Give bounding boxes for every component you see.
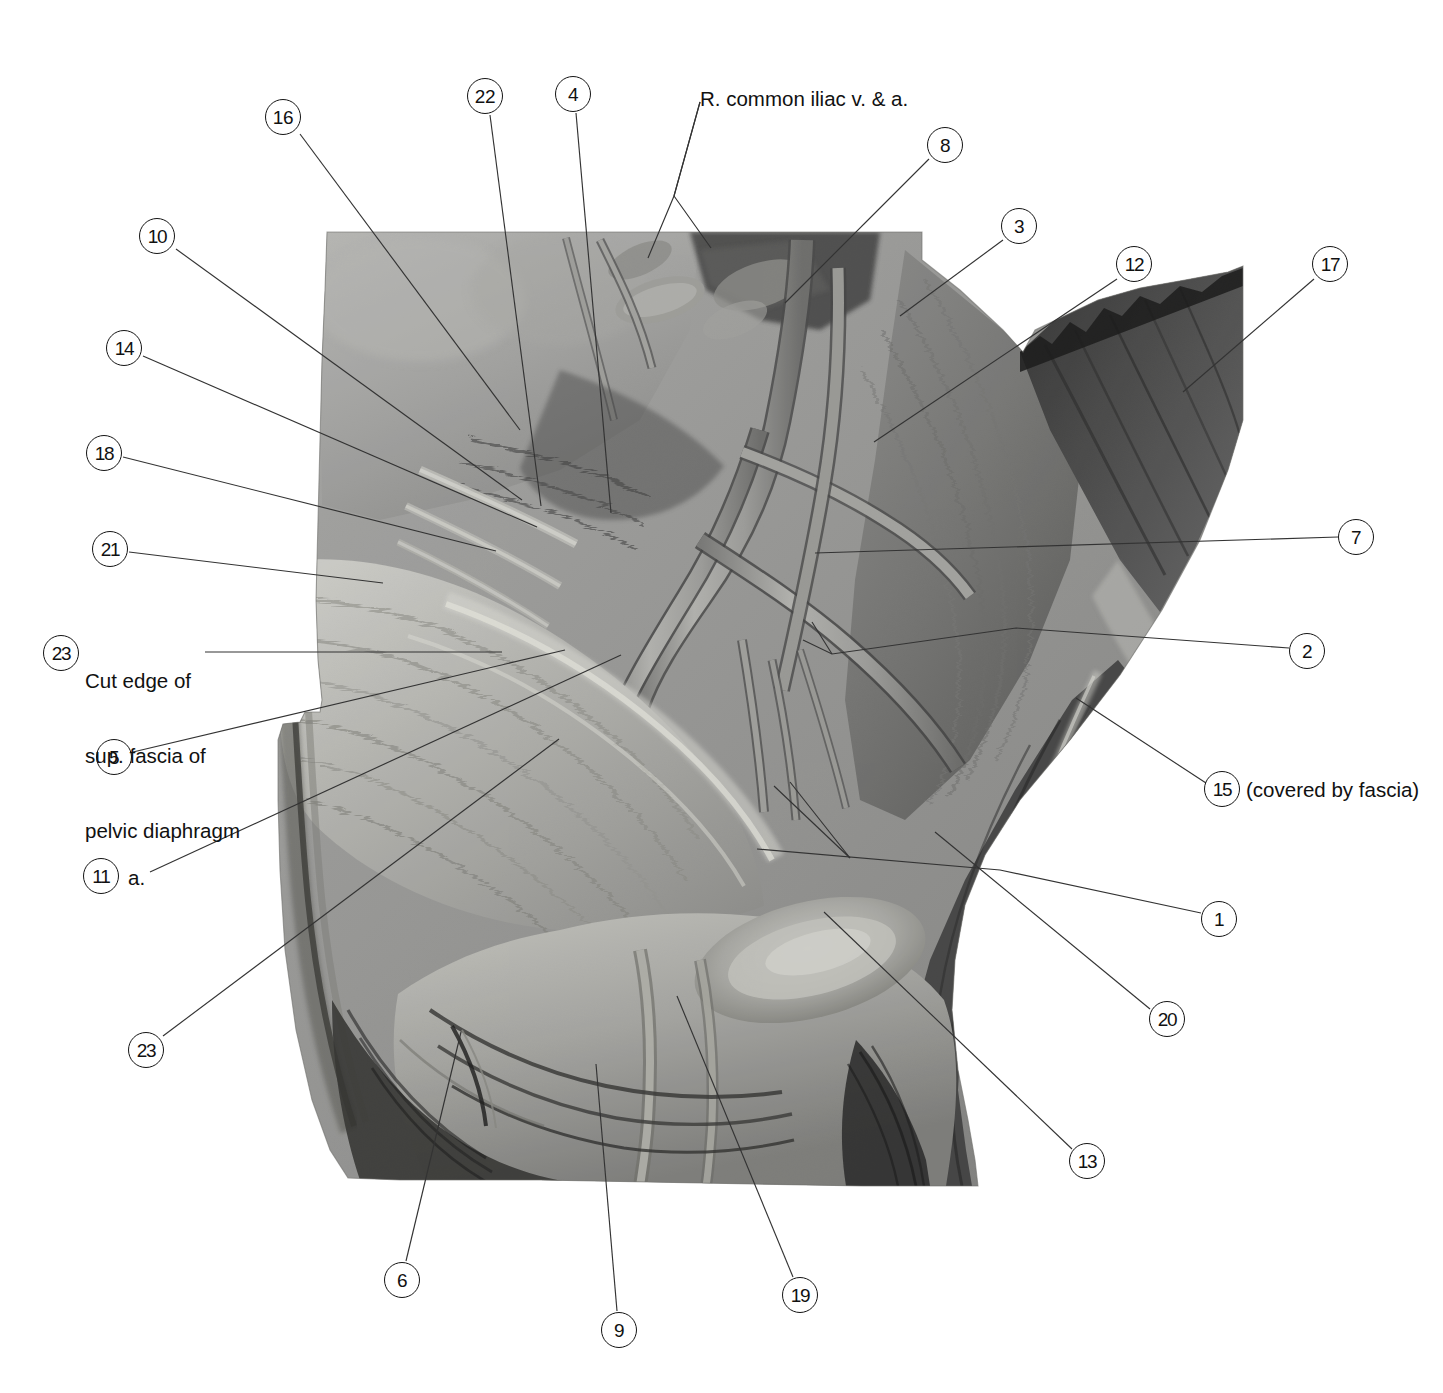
- leader-4: [576, 113, 611, 513]
- callout-3-label: 3: [1014, 217, 1024, 236]
- callout-21-label: 21: [101, 540, 120, 559]
- callout-9-label: 9: [614, 1321, 624, 1340]
- callout-6[interactable]: 6: [384, 1262, 420, 1298]
- callout-6-label: 6: [397, 1271, 407, 1290]
- callout-10[interactable]: 10: [139, 218, 175, 254]
- leader-18: [123, 457, 496, 551]
- callout-23-cut-edge-label: 23: [52, 644, 71, 663]
- leader-common-iliac-a: [648, 102, 700, 258]
- callout-19[interactable]: 19: [782, 1277, 818, 1313]
- leader-16: [300, 134, 520, 430]
- label-11-suffix: a.: [128, 866, 145, 890]
- callout-21[interactable]: 21: [92, 531, 128, 567]
- callout-9[interactable]: 9: [601, 1312, 637, 1348]
- callout-13-label: 13: [1078, 1152, 1097, 1171]
- callout-14-label: 14: [115, 339, 134, 358]
- leader-13: [824, 912, 1072, 1149]
- callout-1-label: 1: [1214, 910, 1224, 929]
- callout-17-label: 17: [1321, 255, 1340, 274]
- leader-1b: [774, 786, 850, 858]
- callout-20[interactable]: 20: [1149, 1001, 1185, 1037]
- callout-1[interactable]: 1: [1201, 901, 1237, 937]
- callout-23-lower-label: 23: [137, 1041, 156, 1060]
- callout-22-label: 22: [475, 87, 495, 106]
- callout-22[interactable]: 22: [467, 78, 503, 114]
- leader-6: [406, 1032, 461, 1261]
- leader-8: [785, 159, 929, 303]
- callout-12[interactable]: 12: [1116, 246, 1152, 282]
- leader-14: [143, 356, 537, 527]
- cut-edge-line-1: Cut edge of: [85, 668, 240, 693]
- callout-7[interactable]: 7: [1338, 519, 1374, 555]
- callout-14[interactable]: 14: [106, 330, 142, 366]
- anatomy-plate: 16 22 4 8 3 12 17 10 14 18 21 23 5 7 2 1…: [0, 0, 1443, 1393]
- leader-2: [803, 628, 1289, 654]
- leader-22: [490, 115, 541, 506]
- cut-edge-label: Cut edge of sup. fascia of pelvic diaphr…: [85, 618, 240, 893]
- callout-13[interactable]: 13: [1069, 1143, 1105, 1179]
- leader-10: [176, 249, 522, 500]
- callout-4-label: 4: [568, 85, 578, 104]
- photo-content: [270, 225, 1255, 1200]
- leader-20: [935, 832, 1150, 1009]
- callout-23-cut-edge[interactable]: 23: [43, 635, 79, 671]
- leader-19: [677, 996, 793, 1277]
- callout-17[interactable]: 17: [1312, 246, 1348, 282]
- leader-15: [1076, 698, 1206, 783]
- cut-edge-line-2: sup. fascia of: [85, 743, 240, 768]
- leader-3: [900, 240, 1003, 316]
- callout-15-label: 15: [1213, 780, 1232, 799]
- callout-23-lower[interactable]: 23: [128, 1032, 164, 1068]
- callout-8-label: 8: [940, 136, 950, 155]
- callout-4[interactable]: 4: [555, 76, 591, 112]
- leader-21: [129, 552, 383, 583]
- leader-9: [596, 1064, 617, 1311]
- leader-2b: [812, 622, 832, 654]
- callout-8[interactable]: 8: [927, 127, 963, 163]
- label-15-suffix: (covered by fascia): [1246, 778, 1419, 802]
- leader-17: [1183, 279, 1314, 392]
- leader-common-iliac-b: [674, 102, 711, 248]
- vascular-bundle: [566, 232, 970, 880]
- callout-10-label: 10: [148, 227, 167, 246]
- cut-edge-line-3: pelvic diaphragm: [85, 818, 240, 843]
- callout-18-label: 18: [95, 444, 114, 463]
- callout-18[interactable]: 18: [86, 435, 122, 471]
- callout-15[interactable]: 15: [1204, 771, 1240, 807]
- callout-7-label: 7: [1351, 528, 1361, 547]
- leader-12: [874, 279, 1117, 442]
- leader-7: [815, 537, 1338, 553]
- callout-2[interactable]: 2: [1289, 633, 1325, 669]
- leader-1: [757, 849, 1201, 913]
- leader-1c: [790, 782, 850, 858]
- callout-3[interactable]: 3: [1001, 208, 1037, 244]
- callout-16[interactable]: 16: [265, 99, 301, 135]
- callout-16-label: 16: [273, 108, 293, 127]
- r-common-iliac-label: R. common iliac v. & a.: [700, 86, 908, 111]
- callout-20-label: 20: [1158, 1010, 1177, 1029]
- callout-19-label: 19: [791, 1286, 810, 1305]
- callout-12-label: 12: [1125, 255, 1144, 274]
- callout-2-label: 2: [1302, 642, 1312, 661]
